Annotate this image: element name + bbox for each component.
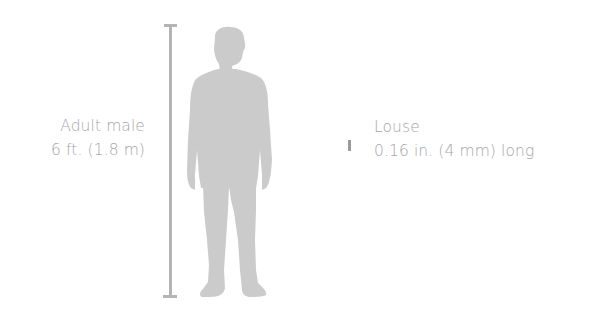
adult-male-silhouette-icon: [187, 27, 272, 297]
louse-label: Louse 0.16 in. (4 mm) long: [374, 115, 534, 163]
louse-size-marker-icon: [348, 140, 351, 151]
height-scale-bar: [163, 24, 177, 298]
louse-name: Louse: [374, 115, 534, 139]
human-size: 6 ft. (1.8 m): [51, 138, 145, 162]
louse-size: 0.16 in. (4 mm) long: [374, 139, 534, 163]
human-label: Adult male 6 ft. (1.8 m): [51, 114, 145, 162]
human-name: Adult male: [51, 114, 145, 138]
